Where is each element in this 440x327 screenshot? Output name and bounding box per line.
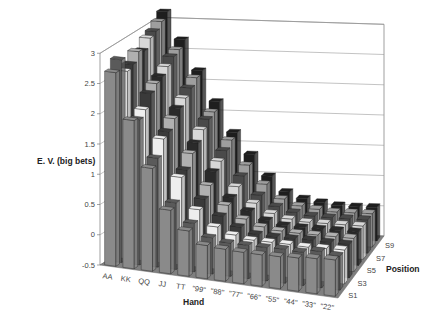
bar [269,252,283,289]
bar-front [159,209,170,274]
bar [141,164,156,271]
bar [324,255,338,296]
bar-side [340,253,343,291]
bar [196,241,211,279]
bar [251,250,265,286]
bar-front [141,167,152,271]
bar [288,253,302,291]
hand-tick-label: JJ [158,279,167,289]
bar-front [178,229,189,276]
position-tick-label: S5 [367,266,376,275]
z-tick-label: 2 [91,109,95,118]
bar-side [262,252,265,287]
z-tick-label: 1 [91,170,95,179]
z-tick-label: 0 [91,230,95,239]
position-tick-label: S1 [348,291,357,300]
hand-tick-label: "44" [283,296,298,307]
bar [123,117,138,269]
z-tick-label: 1.5 [85,140,95,149]
hand-tick-label: "55" [265,294,280,305]
bar-side [359,228,362,265]
hand-tick-label: "88" [210,286,225,297]
bar-side [377,204,380,241]
bar-side [354,235,357,272]
bar-side [171,208,174,274]
bar-side [363,222,366,259]
bar-side [317,255,320,294]
z-axis-title: E. V. (big bets) [37,156,95,166]
hand-tick-label: QQ [138,276,151,287]
hand-tick-label: "22" [320,302,335,313]
bar-side [116,70,120,266]
bar-side [368,216,371,253]
z-tick-label: 3 [91,49,95,58]
bar-side [244,249,247,284]
bar-side [134,118,138,269]
bar-side [281,253,284,288]
position-tick-label: S7 [376,254,385,263]
bar-side [335,256,338,296]
hand-tick-label: "77" [228,289,243,300]
bar-side [226,246,229,281]
bar-front [123,119,134,269]
ev-3d-bar-chart: -0.500.511.522.53 AAKKQQJJTT"99""88""77"… [0,0,440,327]
hand-tick-label: "99" [192,284,207,295]
bar-side [372,210,375,247]
bar [105,69,120,266]
bar-front [105,71,116,266]
hand-tick-label: TT [176,282,187,292]
bar-front [196,244,207,279]
z-tick-label: -0.5 [82,261,95,270]
z-tick-label: 0.5 [85,200,95,209]
hand-tick-label: "66" [247,291,262,302]
hand-tick-label: AA [102,271,113,281]
bar [306,254,320,294]
bar [233,248,248,284]
bar-side [345,246,348,284]
bar-front [306,257,317,294]
bar-front [324,259,335,297]
hand-tick-label: KK [120,274,131,284]
bar-front [233,251,244,284]
bar-front [214,248,225,282]
position-tick-label: S9 [385,241,394,250]
hand-axis-title: Hand [183,297,204,307]
bar-front [251,253,262,286]
bar-front [269,255,280,289]
hand-tick-label: "33" [302,299,317,310]
bar [214,245,229,282]
bar-side [349,241,352,278]
bar [159,206,174,274]
bar-front [288,257,299,292]
bar-side [189,228,192,276]
z-tick-label: 2.5 [85,79,95,88]
bar-side [153,166,156,271]
bar [178,227,193,277]
position-axis-title: Position [386,264,420,274]
position-tick-label: S3 [358,279,367,288]
bar-side [207,243,210,279]
bar-side [299,255,302,292]
